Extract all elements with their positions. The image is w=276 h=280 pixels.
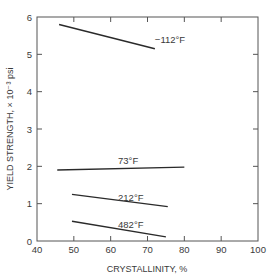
plot-frame bbox=[37, 17, 258, 241]
y-tick-label: 2 bbox=[27, 161, 32, 172]
x-tick-label: 60 bbox=[105, 244, 116, 255]
x-axis: 405060708090100 bbox=[32, 17, 266, 255]
series-label: 482°F bbox=[118, 219, 144, 230]
x-tick-label: 70 bbox=[142, 244, 153, 255]
y-tick-label: 0 bbox=[27, 236, 32, 247]
chart-canvas: 405060708090100 0123456 −112°F73°F212°F4… bbox=[0, 0, 276, 280]
series-lines: −112°F73°F212°F482°F bbox=[57, 24, 185, 236]
series-label: −112°F bbox=[155, 34, 185, 45]
x-tick-label: 40 bbox=[32, 244, 43, 255]
x-tick-label: 100 bbox=[250, 244, 266, 255]
x-tick-label: 80 bbox=[179, 244, 190, 255]
series-label: 212°F bbox=[118, 192, 144, 203]
y-tick-label: 3 bbox=[27, 124, 32, 135]
series-line bbox=[57, 167, 184, 170]
x-tick-label: 90 bbox=[216, 244, 227, 255]
y-tick-label: 1 bbox=[27, 198, 32, 209]
y-axis-label: YIELD STRENGTH, × 10⁻³ psi bbox=[5, 68, 15, 191]
yield-strength-chart: 405060708090100 0123456 −112°F73°F212°F4… bbox=[0, 0, 276, 280]
y-tick-label: 4 bbox=[27, 86, 32, 97]
series-label: 73°F bbox=[118, 155, 138, 166]
plot-border bbox=[37, 17, 258, 241]
x-tick-label: 50 bbox=[69, 244, 80, 255]
y-tick-label: 5 bbox=[27, 49, 32, 60]
y-tick-label: 6 bbox=[27, 12, 32, 23]
x-axis-label: CRYSTALLINITY, % bbox=[107, 264, 188, 274]
y-axis: 0123456 bbox=[27, 12, 258, 247]
series-line bbox=[59, 24, 155, 48]
